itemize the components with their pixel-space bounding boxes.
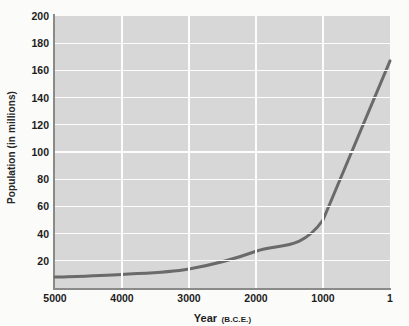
x-axis-tick-label: 1000 <box>311 292 334 304</box>
gridline-vertical <box>121 16 122 288</box>
y-axis-tick-label: 200 <box>31 10 49 22</box>
y-axis-tick-label: 180 <box>31 37 49 49</box>
plot-area <box>55 16 390 288</box>
y-axis-title: Population (in millions) <box>0 0 22 295</box>
y-axis-tick-labels: 20406080100120140160180200 <box>22 0 52 300</box>
gridline-horizontal <box>55 179 390 180</box>
gridline-horizontal <box>55 70 390 71</box>
gridline-horizontal <box>55 151 390 152</box>
x-axis-title-suffix: (B.C.E.) <box>222 315 252 324</box>
y-axis-tick-label: 80 <box>37 173 49 185</box>
gridline-horizontal <box>55 124 390 125</box>
gridline-horizontal <box>55 260 390 261</box>
x-axis-tick-label: 2000 <box>244 292 267 304</box>
x-axis-title-label: Year <box>194 312 217 324</box>
population-line-chart: Population (in millions) 204060801001201… <box>0 0 409 326</box>
gridline-horizontal <box>55 233 390 234</box>
x-axis-tick-labels: 500040003000200010001 <box>0 292 409 308</box>
y-axis-tick-label: 60 <box>37 200 49 212</box>
x-axis-tick-label: 4000 <box>110 292 133 304</box>
x-axis-tick-label: 5000 <box>43 292 66 304</box>
y-axis-tick-label: 120 <box>31 119 49 131</box>
y-axis-tick-label: 40 <box>37 228 49 240</box>
x-axis-title: Year (B.C.E.) <box>55 308 390 326</box>
y-axis-title-label: Population (in millions) <box>6 91 17 204</box>
gridline-vertical <box>188 16 189 288</box>
y-axis-tick-label: 100 <box>31 146 49 158</box>
x-axis-tick-label: 3000 <box>177 292 200 304</box>
data-line-path <box>55 61 390 277</box>
gridline-vertical <box>322 16 323 288</box>
gridline-horizontal <box>55 43 390 44</box>
gridline-vertical <box>255 16 256 288</box>
y-axis-tick-label: 140 <box>31 92 49 104</box>
y-axis-tick-label: 20 <box>37 255 49 267</box>
gridline-horizontal <box>55 97 390 98</box>
gridline-horizontal <box>55 206 390 207</box>
y-axis-tick-label: 160 <box>31 64 49 76</box>
x-axis-tick-label: 1 <box>387 292 393 304</box>
x-axis-line <box>53 288 391 290</box>
